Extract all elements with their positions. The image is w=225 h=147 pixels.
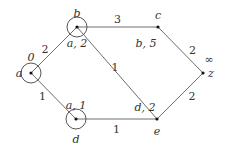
node-b	[75, 25, 78, 28]
edge-weight-b-c: 3	[114, 13, 121, 26]
node-name-z: z	[207, 67, 214, 80]
edge-weight-b-e: 1	[112, 61, 119, 74]
node-d	[74, 117, 77, 120]
node-label-d: a, 1	[66, 99, 87, 112]
node-c	[156, 25, 159, 28]
node-label-c: b, 5	[135, 37, 156, 50]
edge-weight-d-e: 1	[113, 123, 120, 136]
node-name-e: e	[154, 125, 161, 138]
node-name-d: d	[72, 133, 79, 146]
node-label-z: ∞	[204, 53, 213, 66]
node-z	[201, 71, 204, 74]
node-label-a: 0	[28, 51, 35, 64]
edge-weight-c-z: 2	[189, 44, 196, 57]
edge-e-z	[157, 73, 203, 119]
node-e	[155, 117, 158, 120]
node-label-e: d, 2	[134, 101, 155, 114]
edge-c-z	[158, 27, 203, 73]
graph-diagram: 2131122a0ba, 2cb, 5da, 1ed, 2z∞	[0, 0, 225, 147]
graph-svg: 2131122a0ba, 2cb, 5da, 1ed, 2z∞	[0, 0, 225, 147]
node-a	[29, 71, 32, 74]
edge-weight-a-b: 2	[42, 43, 49, 56]
node-name-a: a	[16, 67, 23, 80]
edge-weight-e-z: 2	[189, 90, 196, 103]
node-name-b: b	[73, 7, 80, 20]
edge-weight-a-d: 1	[39, 90, 46, 103]
node-label-b: a, 2	[67, 37, 88, 50]
node-name-c: c	[155, 9, 161, 22]
